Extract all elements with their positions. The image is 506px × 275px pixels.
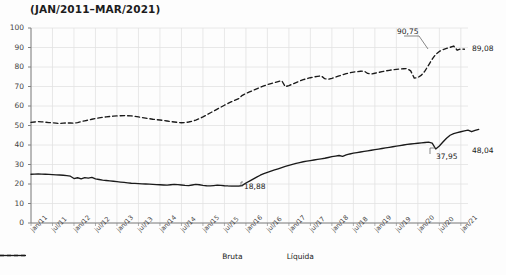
annotation-label: 37,95 — [436, 152, 457, 161]
annotation-label: 18,88 — [244, 182, 265, 191]
annotation-label: 48,04 — [472, 146, 493, 155]
y-axis-tick-label: 40 — [2, 141, 24, 149]
y-axis-tick-label: 0 — [2, 219, 24, 227]
y-axis-tick-label: 30 — [2, 161, 24, 169]
annotation-label: 89,08 — [472, 44, 493, 53]
legend-item-bruta[interactable]: Bruta — [192, 252, 243, 261]
y-axis-tick-label: 80 — [2, 63, 24, 71]
y-axis-tick-label: 90 — [2, 44, 24, 52]
legend-label-bruta: Bruta — [222, 252, 243, 261]
legend-swatch-solid-icon — [257, 253, 283, 260]
legend-label-liquida: Líquida — [287, 252, 314, 261]
y-axis-tick-label: 50 — [2, 122, 24, 130]
legend-swatch-dashed-icon — [192, 253, 218, 260]
y-axis-tick-label: 10 — [2, 200, 24, 208]
y-axis-tick-label: 100 — [2, 24, 24, 32]
y-axis-tick-label: 20 — [2, 180, 24, 188]
chart-container: (JAN/2011–MAR/2021) 10090807060504030201… — [0, 0, 506, 275]
plot-area — [0, 0, 506, 275]
y-axis-tick-label: 60 — [2, 102, 24, 110]
annotation-label: 90,75 — [397, 27, 418, 36]
y-axis-tick-label: 70 — [2, 83, 24, 91]
chart-legend: Bruta Líquida — [0, 252, 506, 261]
legend-item-liquida[interactable]: Líquida — [257, 252, 314, 261]
